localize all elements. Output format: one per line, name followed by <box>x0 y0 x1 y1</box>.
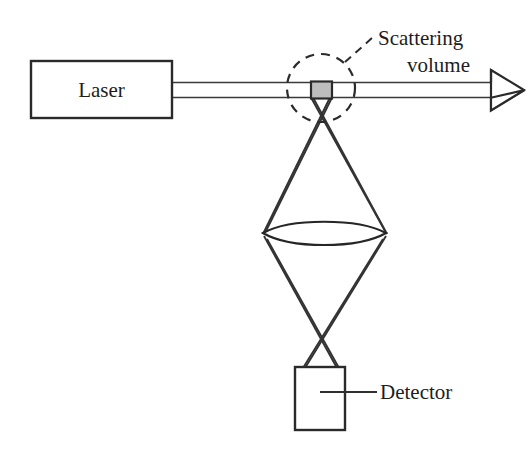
ray-lens-left-to-detector-right-b <box>267 239 339 368</box>
ray-right-to-lens-left <box>266 98 332 232</box>
scattering-volume-label-line2: volume <box>407 53 470 77</box>
scattering-volume-label-line1: Scattering <box>378 26 464 50</box>
diagram-canvas: Laser Detector Sca <box>0 0 529 452</box>
scattering-volume-leader-line <box>345 38 372 62</box>
scattering-diagram-figure: Laser Detector Sca <box>0 0 529 452</box>
detector-box <box>295 367 345 430</box>
detector-label: Detector <box>380 380 452 404</box>
laser-label: Laser <box>78 78 125 102</box>
ray-lens-left-to-detector-right <box>264 236 337 368</box>
scattered-light-upper-cone <box>263 98 387 235</box>
ray-right-to-lens-left-b <box>263 98 330 235</box>
focused-light-lower-cone <box>264 236 386 368</box>
ray-lens-right-to-detector-left-b <box>303 239 383 368</box>
scattering-volume-swatch <box>311 82 332 99</box>
ray-left-to-lens-right-b <box>313 98 387 235</box>
ray-lens-right-to-detector-left <box>305 236 386 368</box>
collection-lens <box>263 222 386 245</box>
